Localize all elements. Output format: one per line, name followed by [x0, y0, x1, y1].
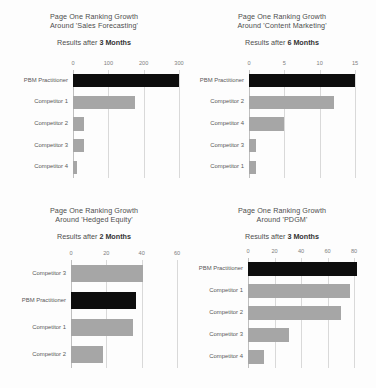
x-tick-label: 15: [352, 60, 358, 66]
x-tick-label: 100: [104, 60, 113, 66]
x-tick-label: 60: [324, 248, 330, 254]
x-tick-label: 10: [317, 60, 323, 66]
x-tick-label: 80: [351, 248, 357, 254]
bar: [249, 96, 334, 109]
chart-content-marketing: Page One Ranking GrowthAround 'Content M…: [188, 0, 376, 194]
category-label: PBM Practitioner: [173, 266, 243, 272]
category-label: Competitor 4: [174, 121, 244, 127]
plot-area: 020406080PBM PractitionerCompetitor 1Com…: [188, 194, 376, 388]
chart-pdgm: Page One Ranking GrowthAround 'PDGM'Resu…: [188, 194, 376, 388]
x-tick-label: 20: [271, 248, 277, 254]
category-label: Competitor 1: [0, 325, 66, 331]
chart-sales-forecasting: Page One Ranking GrowthAround 'Sales For…: [0, 0, 188, 194]
category-label: Competitor 1: [173, 288, 243, 294]
bar: [248, 284, 350, 298]
category-label: Competitor 3: [0, 271, 66, 277]
bar: [73, 96, 135, 109]
bar-highlight: [249, 74, 355, 87]
category-label: Competitor 1: [0, 99, 68, 105]
x-tick-label: 40: [139, 250, 145, 256]
bar-highlight: [73, 74, 179, 87]
bar: [249, 161, 256, 174]
plot-area: 0204060Competitor 3PBM PractitionerCompe…: [0, 194, 188, 388]
x-tick-label: 0: [71, 60, 74, 66]
chart-grid: Page One Ranking GrowthAround 'Sales For…: [0, 0, 376, 388]
bar: [249, 139, 256, 152]
category-label: Competitor 2: [0, 121, 68, 127]
bar-highlight: [248, 262, 357, 276]
category-label: Competitor 2: [0, 352, 66, 358]
bar: [71, 319, 133, 336]
category-label: Competitor 4: [173, 354, 243, 360]
category-label: Competitor 2: [174, 99, 244, 105]
category-label: PBM Practitioner: [0, 298, 66, 304]
category-label: Competitor 3: [174, 143, 244, 149]
plot-area: 051015PBM PractitionerCompetitor 2Compet…: [188, 0, 376, 194]
category-label: Competitor 2: [173, 310, 243, 316]
bar: [248, 350, 264, 364]
bar: [71, 346, 103, 363]
category-label: Competitor 1: [174, 164, 244, 170]
bar: [73, 161, 77, 174]
x-tick-label: 40: [298, 248, 304, 254]
x-tick-label: 5: [283, 60, 286, 66]
bar: [248, 328, 289, 342]
category-label: PBM Practitioner: [174, 78, 244, 84]
bar-highlight: [71, 292, 136, 309]
category-label: Competitor 3: [173, 332, 243, 338]
chart-hedged-equity: Page One Ranking GrowthAround 'Hedged Eq…: [0, 194, 188, 388]
bar: [248, 306, 341, 320]
category-label: Competitor 4: [0, 164, 68, 170]
category-label: Competitor 3: [0, 143, 68, 149]
x-tick-label: 300: [174, 60, 183, 66]
x-tick-label: 20: [103, 250, 109, 256]
charts-sheet: Page One Ranking GrowthAround 'Sales For…: [0, 0, 376, 388]
bar: [73, 139, 84, 152]
plot-area: 0100200300PBM PractitionerCompetitor 1Co…: [0, 0, 188, 194]
category-label: PBM Practitioner: [0, 78, 68, 84]
x-tick-label: 0: [69, 250, 72, 256]
bar: [71, 265, 143, 282]
x-tick-label: 200: [139, 60, 148, 66]
x-tick-label: 0: [247, 60, 250, 66]
x-tick-label: 60: [174, 250, 180, 256]
x-tick-label: 0: [246, 248, 249, 254]
bar: [249, 117, 284, 130]
bar: [73, 117, 84, 130]
